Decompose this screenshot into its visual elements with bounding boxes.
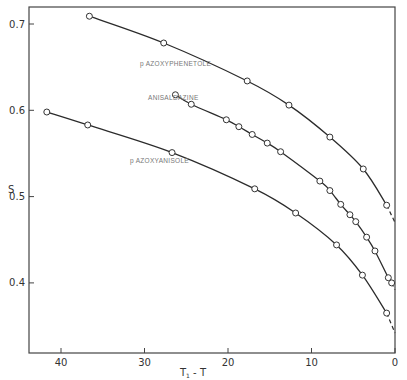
data-point-marker [286,102,292,108]
x-tick-label: 10 [305,357,318,368]
data-point-marker [161,40,167,46]
axis-ticks: 4030201000.70.60.50.4 [9,19,398,369]
data-point-marker [389,280,395,286]
series-curve [89,16,386,205]
label-anisaldazine: ANISALDAZINE [148,94,199,101]
data-point-marker [44,109,50,115]
data-point-marker [360,166,366,172]
data-point-marker [384,310,390,316]
data-point-marker [169,150,175,156]
data-point-marker [359,272,365,278]
data-point-marker [264,140,270,146]
label-p-azoxyphenetole: p AZOXYPHENETOLE [140,60,212,68]
data-point-marker [85,122,91,128]
data-point-marker [384,202,390,208]
x-tick-label: 0 [392,357,398,368]
data-point-marker [327,188,333,194]
data-point-marker [293,210,299,216]
data-point-marker [86,13,92,19]
series-curve [175,95,391,283]
data-point-marker [249,131,255,137]
data-point-marker [278,149,284,155]
data-point-marker [244,78,250,84]
chart-canvas: 4030201000.70.60.50.4 p AZOXYPHENETOLE A… [0,0,407,380]
plot-border [29,7,395,353]
y-tick-label: 0.7 [9,19,25,30]
x-axis-label: T1 - T [179,367,207,379]
y-tick-label: 0.6 [9,105,25,116]
x-tick-label: 20 [222,357,235,368]
data-point-marker [252,186,258,192]
data-points [44,13,395,316]
data-point-marker [372,248,378,254]
data-point-marker [223,117,229,123]
x-tick-label: 40 [55,357,68,368]
y-tick-label: 0.4 [9,277,25,288]
data-point-marker [347,212,353,218]
data-point-marker [317,178,323,184]
label-p-azoxyanisole: p AZOXYANISOLE [130,157,189,165]
y-axis-label: S [8,184,14,195]
data-curves [47,16,395,333]
data-point-marker [334,242,340,248]
x-tick-label: 30 [138,357,151,368]
data-point-marker [327,134,333,140]
data-point-marker [353,219,359,225]
data-point-marker [338,201,344,207]
data-point-marker [188,101,194,107]
data-point-marker [364,234,370,240]
data-point-marker [236,124,242,130]
plot-frame [29,7,395,353]
